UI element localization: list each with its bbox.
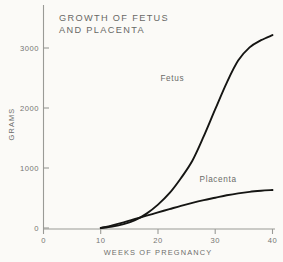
- x-axis-label: WEEKS OF PREGNANCY: [104, 248, 213, 257]
- y-tick-label-0: 0: [34, 224, 39, 233]
- y-tick-label-3000: 3000: [20, 44, 39, 53]
- y-tick-label-2000: 2000: [20, 104, 39, 113]
- chart-container: 3000 2000 1000 0 0 10 20 30 40 WEEKS OF …: [0, 0, 283, 262]
- growth-line-chart: 3000 2000 1000 0 0 10 20 30 40 WEEKS OF …: [0, 0, 283, 262]
- x-tick-label-10: 10: [96, 236, 105, 245]
- x-axis-ticks: [44, 229, 273, 234]
- fetus-series-label: Fetus: [160, 74, 184, 83]
- y-axis-label: GRAMS: [7, 108, 16, 141]
- x-tick-label-0: 0: [41, 236, 46, 245]
- placenta-series-label: Placenta: [200, 175, 237, 184]
- placenta-curve: [101, 190, 273, 228]
- fetus-curve: [101, 35, 273, 228]
- x-tick-label-20: 20: [153, 236, 162, 245]
- chart-title-line1: GROWTH OF FETUS: [59, 13, 169, 23]
- y-tick-label-1000: 1000: [20, 164, 39, 173]
- x-tick-label-30: 30: [210, 236, 219, 245]
- chart-title-line2: AND PLACENTA: [59, 25, 145, 35]
- x-tick-label-40: 40: [268, 236, 277, 245]
- y-axis-ticks: [44, 48, 50, 228]
